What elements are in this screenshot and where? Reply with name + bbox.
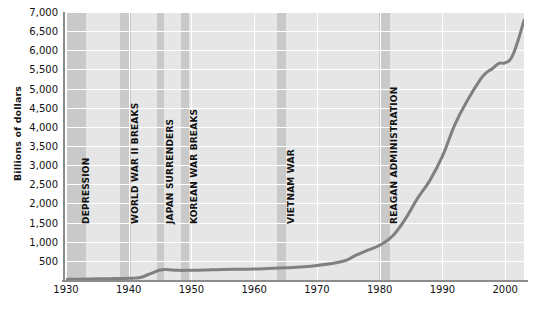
y-axis-tick-label: 2,500 [29,179,58,190]
event-label: JAPAN SURRENDERS [165,119,175,224]
x-axis-line [62,280,528,282]
y-axis-tick-label: 3,000 [29,160,58,171]
y-axis-tick-label: 4,500 [29,102,58,113]
y-axis-tick-label: 5,500 [29,64,58,75]
y-axis-tick-labels: 5001,0001,5002,0002,5003,0003,5004,0004,… [0,0,62,309]
event-label: WORLD WAR II BREAKS [130,103,140,224]
y-axis-tick-label: 1,500 [29,217,58,228]
x-axis-tick-label: 2000 [492,284,517,295]
y-axis-tick-label: 7,000 [29,7,58,18]
x-axis-tick-label: 1940 [116,284,141,295]
x-axis-tick-label: 1950 [179,284,204,295]
chart-container: Billions of dollars 5001,0001,5002,0002,… [0,0,535,309]
y-axis-tick-label: 2,000 [29,198,58,209]
y-axis-line [63,12,65,282]
x-axis-tick-label: 1930 [53,284,78,295]
plot-area: DEPRESSIONWORLD WAR II BREAKSJAPAN SURRE… [66,12,524,280]
x-axis-tick-label: 1960 [241,284,266,295]
x-axis-tick-label: 1990 [430,284,455,295]
y-axis-tick-label: 5,000 [29,83,58,94]
y-axis-tick-label: 1,000 [29,236,58,247]
y-axis-tick-label: 6,000 [29,45,58,56]
y-axis-tick-label: 3,500 [29,141,58,152]
event-label: REAGAN ADMINISTRATION [389,87,399,224]
y-axis-tick-label: 500 [39,255,58,266]
x-axis-tick-labels: 19301940195019601970198019902000 [0,284,535,306]
event-label: VIETNAM WAR [286,149,296,224]
y-axis-tick-label: 6,500 [29,26,58,37]
y-axis-tick-label: 4,000 [29,121,58,132]
event-label: DEPRESSION [81,158,91,224]
x-axis-tick-label: 1980 [367,284,392,295]
event-label: KOREAN WAR BREAKS [189,109,199,224]
x-axis-tick-label: 1970 [304,284,329,295]
